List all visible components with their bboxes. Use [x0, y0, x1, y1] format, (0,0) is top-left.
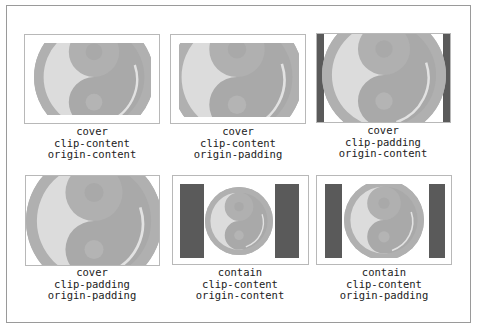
panel-label: containclip-contentorigin-padding	[309, 267, 459, 302]
panel-label: coverclip-paddingorigin-content	[308, 125, 458, 160]
demo-box-cover-clip-content-origin-content	[24, 34, 160, 124]
demo-box-contain-clip-content-origin-content	[172, 175, 309, 265]
yin-yang-image	[322, 33, 446, 123]
yin-yang-image	[179, 43, 299, 117]
dark-bar-right	[275, 184, 299, 258]
demo-box-cover-clip-padding-origin-padding	[25, 175, 160, 266]
yin-yang-image	[344, 184, 424, 258]
demo-box-cover-clip-padding-origin-content	[316, 33, 451, 123]
yin-yang-image	[34, 43, 151, 115]
yin-yang-image	[205, 187, 273, 255]
panel-label: coverclip-contentorigin-padding	[163, 126, 313, 161]
yin-yang-image	[26, 175, 160, 266]
panel-label: coverclip-paddingorigin-padding	[17, 267, 167, 302]
demo-box-cover-clip-content-origin-padding	[170, 34, 306, 124]
dark-bar-left	[180, 184, 204, 258]
demo-box-contain-clip-content-origin-padding	[316, 175, 452, 265]
panel-label: coverclip-contentorigin-content	[17, 126, 167, 161]
panel-label: containclip-contentorigin-content	[165, 267, 315, 302]
